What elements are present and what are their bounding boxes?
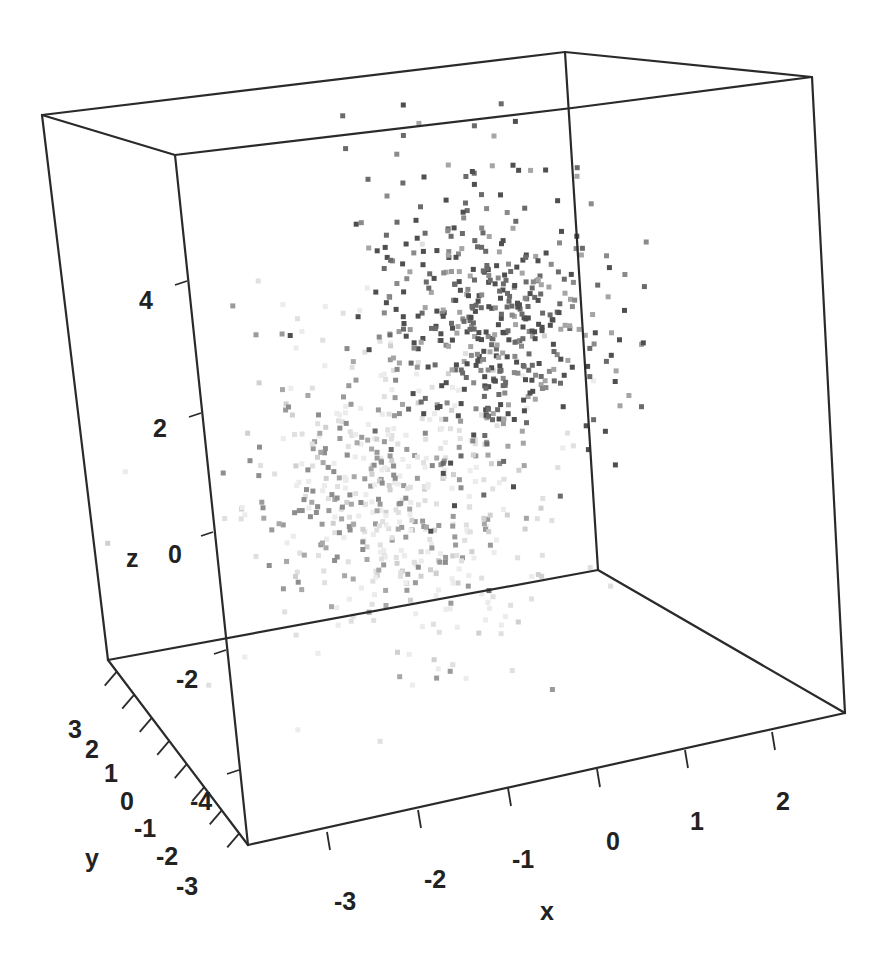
tick-mark	[772, 732, 775, 750]
data-point	[454, 553, 459, 558]
data-point	[479, 192, 484, 197]
data-point	[479, 576, 484, 581]
data-point	[452, 225, 457, 230]
data-point	[326, 465, 331, 470]
data-point	[481, 268, 486, 273]
data-point	[343, 404, 348, 409]
data-point	[642, 284, 647, 289]
data-point	[464, 375, 469, 380]
data-point	[408, 598, 413, 603]
data-point	[428, 567, 433, 572]
data-point	[415, 236, 420, 241]
z-tick-label: 2	[153, 414, 167, 442]
data-point	[277, 521, 282, 526]
data-point	[577, 327, 582, 332]
data-point	[322, 363, 327, 368]
data-point	[286, 405, 291, 410]
data-point	[373, 429, 378, 434]
x-axis-title: x	[540, 897, 554, 925]
data-point	[343, 485, 348, 490]
data-point	[292, 432, 297, 437]
data-point	[505, 210, 510, 215]
data-point	[418, 204, 423, 209]
x-tick-label: 1	[690, 807, 704, 835]
data-point	[394, 307, 399, 312]
data-point	[488, 349, 493, 354]
data-point	[426, 286, 431, 291]
data-point	[432, 411, 437, 416]
data-point	[454, 255, 459, 260]
data-point	[511, 163, 516, 168]
data-point	[391, 464, 396, 469]
data-point	[409, 361, 414, 366]
y-tick-label: 2	[85, 735, 99, 763]
data-point	[408, 500, 413, 505]
data-point	[468, 468, 473, 473]
data-point	[454, 331, 459, 336]
data-point	[521, 325, 526, 330]
data-point	[487, 234, 492, 239]
data-point	[520, 271, 525, 276]
tick-mark	[140, 718, 152, 732]
data-point	[346, 559, 351, 564]
data-point	[466, 584, 471, 589]
data-point	[458, 419, 463, 424]
data-point	[499, 623, 504, 628]
data-point	[426, 482, 431, 487]
data-point	[453, 298, 458, 303]
tick-mark	[122, 695, 134, 709]
data-point	[502, 477, 507, 482]
data-point	[449, 234, 454, 239]
data-point	[335, 496, 340, 501]
data-point	[429, 546, 434, 551]
data-point	[339, 516, 344, 521]
data-point	[543, 385, 548, 390]
data-point	[396, 482, 401, 487]
data-point	[299, 329, 304, 334]
data-point	[484, 386, 489, 391]
data-point	[401, 327, 406, 332]
data-point	[397, 329, 402, 334]
data-point	[388, 487, 393, 492]
box-edge	[175, 155, 248, 845]
data-point	[404, 276, 409, 281]
data-point	[462, 538, 467, 543]
data-point	[613, 462, 618, 467]
data-point	[471, 267, 476, 272]
data-point	[505, 513, 510, 518]
data-point	[355, 440, 360, 445]
data-point	[567, 323, 572, 328]
data-point	[420, 519, 425, 524]
tick-mark	[214, 650, 226, 654]
data-point	[332, 530, 337, 535]
data-point	[508, 603, 513, 608]
data-point	[405, 572, 410, 577]
data-point	[484, 206, 489, 211]
data-point	[497, 480, 502, 485]
data-point	[397, 361, 402, 366]
data-point	[550, 317, 555, 322]
y-tick-label: 0	[120, 787, 134, 815]
data-point	[256, 279, 261, 284]
data-point	[340, 113, 345, 118]
data-point	[409, 528, 414, 533]
data-point	[393, 378, 398, 383]
data-point	[302, 553, 307, 558]
data-point	[365, 557, 370, 562]
data-point	[404, 334, 409, 339]
data-point	[398, 501, 403, 506]
data-point	[482, 394, 487, 399]
data-point	[412, 560, 417, 565]
data-point	[544, 251, 549, 256]
z-tick-label: -4	[190, 787, 212, 815]
data-point	[476, 336, 481, 341]
data-point	[536, 258, 541, 263]
data-point	[563, 291, 568, 296]
data-point	[588, 565, 593, 570]
data-point	[240, 505, 245, 510]
box-edge	[565, 52, 598, 570]
data-point	[467, 494, 472, 499]
data-point	[299, 461, 304, 466]
data-point	[461, 215, 466, 220]
data-point	[404, 588, 409, 593]
